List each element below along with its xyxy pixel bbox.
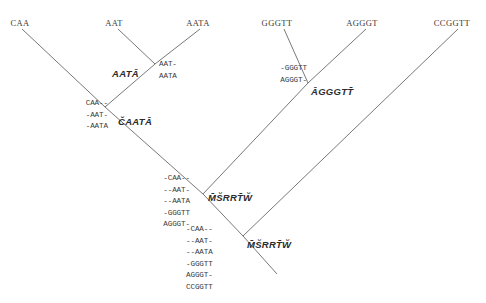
aln-caa-aat-aata: CAA---AAT--AATA — [86, 98, 108, 133]
aln-five-sequence: -CAA----AAT---AATA-GGGTTAGGGT- — [163, 173, 190, 231]
node-msrrtw-1: M̄S̆RRT̄W̆ — [208, 192, 252, 203]
aln-gggtt-agggt: -GGGTTAGGGT- — [280, 63, 307, 86]
alignment-row: --AATA — [163, 196, 190, 208]
alignment-row: AATA — [159, 71, 177, 83]
leaf-aata: AATA — [186, 18, 210, 28]
node-agggtt: ĀGGGTT̄ — [311, 86, 353, 97]
node-aata: AATĀ — [112, 68, 139, 79]
alignment-row: CAA-- — [86, 98, 108, 110]
alignment-row: -GGGTT — [186, 259, 213, 271]
branch-caa-to-caata — [22, 29, 105, 107]
alignment-row: AGGGT- — [186, 270, 213, 282]
leaf-aat: AAT — [105, 18, 123, 28]
aln-six-sequence: -CAA----AAT---AATA-GGGTTAGGGT-CCGGTT — [186, 224, 213, 294]
branch-agggtt-to-root1 — [203, 83, 308, 194]
alignment-row: --AATA — [186, 247, 213, 259]
tree-branch-lines — [0, 0, 486, 303]
alignment-row: -AATA — [86, 121, 108, 133]
alignment-row: -GGGTT — [280, 63, 307, 75]
alignment-row: -CAA-- — [163, 173, 190, 185]
alignment-row: --AAT- — [186, 236, 213, 248]
phylogenetic-tree-figure: CAAAATAATAGGGTTAGGGTCCGGTT AATĀČAATĀĀGGG… — [0, 0, 486, 303]
node-caata: ČAATĀ — [118, 116, 152, 127]
alignment-row: AGGGT- — [280, 75, 307, 87]
alignment-row: -AAT- — [86, 110, 108, 122]
alignment-row: -GGGTT — [163, 208, 190, 220]
alignment-row: --AAT- — [163, 185, 190, 197]
aln-aat-aata: AAT-AATA — [159, 59, 177, 82]
alignment-row: AAT- — [159, 59, 177, 71]
leaf-caa: CAA — [10, 18, 29, 28]
leaf-ccggtt: CCGGTT — [434, 18, 470, 28]
branch-aat-to-aata — [118, 29, 155, 64]
leaf-gggtt: GGGTT — [262, 18, 293, 28]
leaf-agggt: AGGGT — [346, 18, 378, 28]
node-msrrtw-2: M̄S̆RRT̄W̆ — [247, 239, 291, 250]
alignment-row: -CAA-- — [186, 224, 213, 236]
branch-agggt-to-agggtt — [308, 29, 366, 83]
alignment-row: CCGGTT — [186, 282, 213, 294]
branch-ccggtt-to-root2 — [243, 29, 458, 236]
